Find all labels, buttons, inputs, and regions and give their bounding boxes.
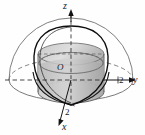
y-axis-label: y bbox=[133, 75, 137, 85]
z-axis-label: z bbox=[63, 1, 67, 11]
axis-arrow-up-icon bbox=[68, 9, 73, 16]
x-axis-tick-label: 2 bbox=[65, 108, 70, 117]
y-axis-tick-label: 2 bbox=[119, 76, 124, 85]
solid-geometry-figure: z y x 2 2 O bbox=[0, 0, 145, 135]
figure-canvas bbox=[0, 0, 145, 135]
x-axis-label: x bbox=[62, 122, 66, 132]
origin-label: O bbox=[57, 63, 64, 72]
